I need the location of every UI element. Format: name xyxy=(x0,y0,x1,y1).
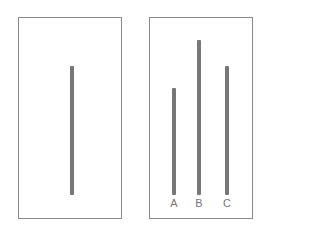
label-a: A xyxy=(167,197,181,209)
comparison-line-c xyxy=(225,66,229,195)
reference-line xyxy=(70,66,74,195)
comparison-card xyxy=(149,17,253,219)
comparison-line-b xyxy=(197,40,201,195)
comparison-line-a xyxy=(172,88,176,195)
label-c: C xyxy=(220,197,234,209)
label-b: B xyxy=(192,197,206,209)
